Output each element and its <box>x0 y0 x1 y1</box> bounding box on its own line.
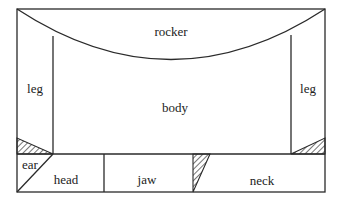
label-ear: ear <box>22 157 39 172</box>
label-leg-right: leg <box>300 81 316 96</box>
label-leg-left: leg <box>27 81 43 96</box>
label-body: body <box>162 100 189 115</box>
pattern-diagram: rocker leg leg body ear head jaw neck <box>0 0 345 205</box>
right-corner-hatch <box>291 138 325 154</box>
jaw-neck-hatch <box>193 154 210 192</box>
left-corner-hatch <box>17 138 53 154</box>
label-rocker: rocker <box>154 24 188 39</box>
label-jaw: jaw <box>137 172 157 187</box>
label-head: head <box>54 172 79 187</box>
label-neck: neck <box>250 173 275 188</box>
